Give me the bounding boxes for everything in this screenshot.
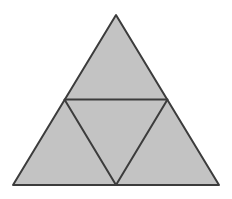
triangle-figure [0,0,232,199]
figure-canvas [0,0,232,199]
